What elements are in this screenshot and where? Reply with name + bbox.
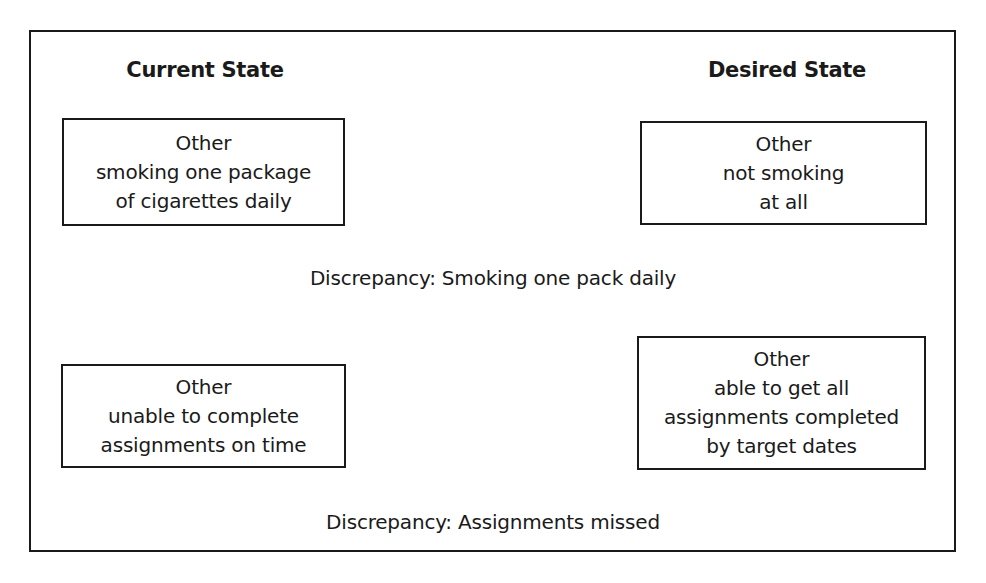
current-state-heading: Current State — [126, 58, 283, 82]
box-line: smoking one package — [96, 158, 311, 187]
box-line: Other — [176, 129, 232, 158]
box-line: by target dates — [706, 432, 857, 461]
box-line: able to get all — [714, 374, 849, 403]
desired-state-box-assignments: Other able to get all assignments comple… — [637, 336, 926, 470]
discrepancy-smoking: Discrepancy: Smoking one pack daily — [310, 266, 676, 290]
discrepancy-assignments: Discrepancy: Assignments missed — [326, 510, 660, 534]
box-line: of cigarettes daily — [115, 187, 291, 216]
box-line: at all — [759, 188, 808, 217]
box-line: Other — [176, 373, 232, 402]
diagram-frame — [29, 30, 956, 552]
box-line: Other — [756, 130, 812, 159]
current-state-box-smoking: Other smoking one package of cigarettes … — [62, 118, 345, 226]
box-line: Other — [754, 345, 810, 374]
desired-state-box-smoking: Other not smoking at all — [640, 121, 927, 225]
box-line: assignments completed — [664, 403, 899, 432]
box-line: unable to complete — [108, 402, 299, 431]
desired-state-heading: Desired State — [708, 58, 866, 82]
box-line: not smoking — [723, 159, 845, 188]
box-line: assignments on time — [101, 431, 307, 460]
current-state-box-assignments: Other unable to complete assignments on … — [61, 364, 346, 468]
